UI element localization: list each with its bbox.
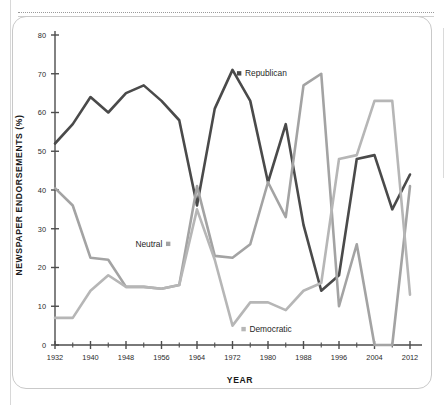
y-tick-label: 80	[38, 31, 46, 40]
legend-label: Republican	[245, 68, 287, 78]
x-tick-label: 1980	[260, 353, 276, 362]
legend-marker-icon	[241, 327, 245, 331]
legend-annotation-republican: Republican	[237, 68, 287, 78]
x-tick-label: 2012	[402, 353, 418, 362]
y-tick-label: 40	[38, 186, 46, 195]
legend-marker-icon	[237, 71, 241, 75]
x-tick-label: 1964	[189, 353, 205, 362]
y-tick-label: 50	[38, 147, 46, 156]
series-line-neutral	[55, 74, 410, 345]
x-tick-label: 1996	[331, 353, 347, 362]
x-axis-title: YEAR	[227, 375, 253, 385]
series-group	[55, 70, 410, 345]
y-axis-title: NEWSPAPER ENDORSEMENTS (%)	[14, 114, 24, 275]
x-tick-label: 2004	[366, 353, 382, 362]
x-tick-label: 1972	[224, 353, 240, 362]
legend-annotation-neutral: Neutral	[135, 239, 170, 249]
y-tick-label: 0	[42, 341, 46, 350]
x-tick-label: 1956	[153, 353, 169, 362]
annotations-group: RepublicanNeutralDemocratic	[135, 68, 291, 334]
y-tick-label: 60	[38, 108, 46, 117]
series-line-democratic	[55, 101, 410, 326]
page-root: 01020304050607080 1932194019481956196419…	[0, 0, 446, 405]
legend-marker-icon	[166, 242, 170, 246]
y-tick-label: 70	[38, 70, 46, 79]
legend-label: Democratic	[249, 324, 291, 334]
line-chart: 01020304050607080 1932194019481956196419…	[0, 0, 446, 405]
x-tick-label: 1948	[118, 353, 134, 362]
y-tick-label: 10	[38, 302, 46, 311]
y-tick-label: 20	[38, 263, 46, 272]
legend-label: Neutral	[135, 239, 162, 249]
x-axis-ticks: 1932194019481956196419721980198819962004…	[47, 341, 418, 362]
y-tick-label: 30	[38, 225, 46, 234]
chart-container: 01020304050607080 1932194019481956196419…	[0, 0, 446, 405]
legend-annotation-democratic: Democratic	[241, 324, 291, 334]
x-tick-label: 1988	[295, 353, 311, 362]
x-tick-label: 1940	[82, 353, 98, 362]
x-tick-label: 1932	[47, 353, 63, 362]
